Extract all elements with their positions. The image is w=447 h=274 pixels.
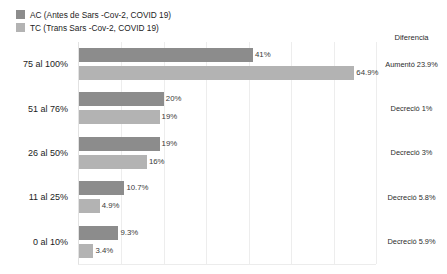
bar-group-ac: 9.3% <box>79 226 138 240</box>
bar-value-label: 16% <box>149 155 165 169</box>
chart-category-row: 20%19% <box>79 86 376 130</box>
bar-value-label: 19% <box>162 137 178 151</box>
chart-category-row: 10.7%4.9% <box>79 175 376 219</box>
difference-value-3: Decreció 5.8% <box>376 175 447 219</box>
bar-group-tc: 16% <box>79 155 164 169</box>
bar <box>79 48 253 62</box>
bar-value-label: 9.3% <box>120 226 138 240</box>
bar-chart-figure: AC (Antes de Sars -Cov-2, COVID 19) TC (… <box>0 0 447 274</box>
bar-group-tc: 3.4% <box>79 244 113 258</box>
bar-group-ac: 10.7% <box>79 181 149 195</box>
y-axis-label-4: 0 al 10% <box>33 220 68 264</box>
bar-group-ac: 41% <box>79 48 271 62</box>
bar <box>79 155 147 169</box>
chart-category-row: 19%16% <box>79 131 376 175</box>
y-axis-label-3: 11 al 25% <box>29 175 68 219</box>
legend-item-tc: TC (Trans Sars -Cov-2, COVID 19) <box>16 22 276 33</box>
bar-group-tc: 64.9% <box>79 66 378 80</box>
bar <box>79 181 124 195</box>
y-axis-category-labels: 75 al 100%51 al 76%26 al 50%11 al 25%0 a… <box>0 42 72 264</box>
bar-group-tc: 4.9% <box>79 199 120 213</box>
y-axis-label-2: 26 al 50% <box>28 131 68 175</box>
bar <box>79 226 118 240</box>
bar-value-label: 3.4% <box>95 244 113 258</box>
bar-value-label: 20% <box>166 92 182 106</box>
chart-category-row: 41%64.9% <box>79 42 376 86</box>
bar-value-label: 41% <box>255 48 271 62</box>
y-axis-label-0: 75 al 100% <box>23 42 68 86</box>
difference-column: Diferencia Aumentó 23.9%Decreció 1%Decre… <box>376 42 447 264</box>
legend-swatch-ac <box>16 10 25 19</box>
legend-label-tc: TC (Trans Sars -Cov-2, COVID 19) <box>30 23 159 33</box>
bar <box>79 199 100 213</box>
bar-value-label: 10.7% <box>126 181 148 195</box>
legend-item-ac: AC (Antes de Sars -Cov-2, COVID 19) <box>16 9 276 20</box>
bar <box>79 92 164 106</box>
legend-label-ac: AC (Antes de Sars -Cov-2, COVID 19) <box>30 10 171 20</box>
difference-column-header: Diferencia <box>376 33 447 42</box>
bar-group-ac: 19% <box>79 137 177 151</box>
bar-group-ac: 20% <box>79 92 181 106</box>
bar <box>79 110 160 124</box>
bar-group-tc: 19% <box>79 110 177 124</box>
bar <box>79 244 93 258</box>
legend-swatch-tc <box>16 23 25 32</box>
chart-legend: AC (Antes de Sars -Cov-2, COVID 19) TC (… <box>16 9 276 35</box>
difference-value-0: Aumentó 23.9% <box>376 42 447 86</box>
y-axis-label-1: 51 al 76% <box>28 86 68 130</box>
difference-value-4: Decreció 5.9% <box>376 220 447 264</box>
bar <box>79 66 354 80</box>
difference-value-1: Decreció 1% <box>376 86 447 130</box>
plot-area: 41%64.9%20%19%19%16%10.7%4.9%9.3%3.4% <box>78 42 376 265</box>
bar-value-label: 4.9% <box>102 199 120 213</box>
bar <box>79 137 160 151</box>
bar-value-label: 19% <box>162 110 178 124</box>
difference-value-2: Decreció 3% <box>376 131 447 175</box>
chart-category-row: 9.3%3.4% <box>79 220 376 264</box>
